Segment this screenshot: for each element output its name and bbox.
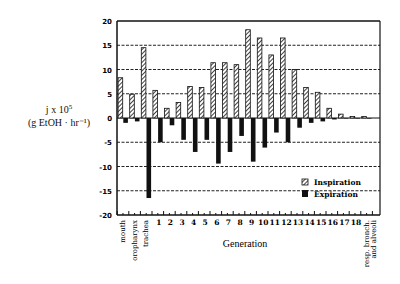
bar-inspiration [199,87,204,118]
y-tick-label: -5 [104,139,112,147]
x-tick-label: oropharynx [131,220,139,261]
x-axis-label: Generation [223,238,267,249]
bar-expiration [239,118,244,136]
x-tick-label: 4 [191,218,196,227]
bar-inspiration [211,63,216,118]
x-tick-label: 18 [351,218,361,227]
bar-inspiration [176,102,181,118]
bars [118,30,371,198]
bar-inspiration [141,48,146,118]
bar-inspiration [281,38,286,118]
y-tick-label: 10 [102,67,112,75]
bar-expiration [297,118,302,128]
bar-chart: 20151050-5-10-15-20mouthoropharynxtrache… [0,0,400,284]
bar-expiration [309,118,314,123]
bar-expiration [286,118,291,142]
bar-inspiration [350,117,355,118]
x-tick-label: 9 [249,218,254,227]
y-tick-label: 5 [107,91,112,99]
bar-inspiration [130,94,135,118]
y-tick-label: 15 [102,42,112,50]
bar-expiration [135,118,140,121]
bar-expiration [344,118,349,119]
x-tick-label: 14 [304,218,314,227]
bar-expiration [251,118,256,162]
bar-expiration [367,118,372,119]
bar-expiration [158,118,163,142]
bar-expiration [355,118,360,119]
x-tick-label: 17 [339,218,349,227]
x-tick-label: 1 [156,218,161,227]
y-tick-label: -10 [99,164,112,172]
y-tick-label: 20 [102,18,112,26]
x-tick-label: 7 [226,218,231,227]
bar-expiration [228,118,233,152]
bar-inspiration [118,78,123,118]
x-tick-label: 12 [281,218,291,227]
bar-expiration [216,118,221,164]
x-tick-label: 11 [270,218,280,227]
bar-inspiration [246,30,251,118]
x-tick-label: 2 [168,218,173,227]
bar-inspiration [223,63,228,118]
y-tick-label: 0 [107,115,112,123]
x-tick-label: mouth [119,220,127,243]
y-tick-label: -20 [99,212,112,220]
bar-inspiration [315,92,320,118]
x-tick-label: 6 [214,218,219,227]
legend: InspirationExpiration [302,178,361,199]
x-tick-label: 13 [293,218,303,227]
bar-inspiration [165,108,170,118]
x-tick-label: 15 [316,218,326,227]
legend-swatch-inspiration [302,179,308,185]
bar-expiration [205,118,210,140]
y-tick-label: -15 [99,188,112,196]
bar-expiration [321,118,326,121]
bar-inspiration [327,108,332,118]
bar-inspiration [234,65,239,118]
bar-expiration [147,118,152,198]
legend-label-expiration: Expiration [314,190,358,199]
bar-expiration [170,118,175,125]
bar-inspiration [188,86,193,118]
bar-expiration [181,118,186,140]
x-tick-label: trachea [142,220,150,247]
bar-inspiration [292,70,297,119]
bar-inspiration [304,87,309,118]
x-tick-label: 10 [258,218,268,227]
x-tick-label: 3 [179,218,184,227]
x-tick-label: 5 [203,218,208,227]
bar-inspiration [153,90,158,118]
bar-inspiration [269,55,274,118]
bar-inspiration [362,117,367,118]
bar-expiration [274,118,279,133]
bar-inspiration [257,38,262,118]
bar-expiration [332,118,337,119]
bar-inspiration [339,114,344,118]
legend-label-inspiration: Inspiration [314,178,361,187]
x-tick-label: 16 [328,218,338,227]
bar-expiration [263,118,268,148]
bar-expiration [193,118,198,152]
bar-expiration [123,118,128,123]
legend-swatch-expiration [302,190,308,197]
x-tick-label: and alveoli [370,219,378,258]
x-tick-label: 8 [237,218,242,227]
